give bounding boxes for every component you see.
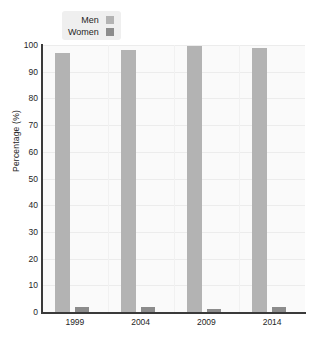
y-axis-tick-labels: 0102030405060708090100 [16, 45, 38, 312]
bar-men-2014 [252, 48, 267, 312]
bar-men-2004 [121, 50, 136, 312]
x-axis-tick-labels: 1999200420092014 [42, 317, 305, 333]
legend-label: Women [68, 27, 99, 37]
y-axis-tick-label: 80 [16, 93, 38, 103]
plot-area [42, 45, 305, 312]
y-axis-line [41, 44, 43, 313]
legend-item-women: Women [68, 26, 114, 37]
bar-group [187, 45, 240, 312]
vertical-gridline [108, 45, 109, 312]
x-axis-line [41, 312, 306, 314]
x-axis-tick-label: 2004 [111, 317, 171, 327]
y-axis-tick-label: 60 [16, 147, 38, 157]
vertical-gridline [239, 45, 240, 312]
bar-men-1999 [55, 53, 70, 312]
y-axis-tick-label: 70 [16, 120, 38, 130]
y-axis-tick-label: 100 [16, 40, 38, 50]
x-axis-tick-label: 2014 [242, 317, 302, 327]
bar-chart-figure: Percentage (%) 0102030405060708090100 19… [0, 0, 313, 344]
bar-men-2009 [187, 46, 202, 312]
bar-group [121, 45, 174, 312]
bar-group [55, 45, 108, 312]
x-axis-tick-label: 2009 [176, 317, 236, 327]
chart-legend: MenWomen [62, 11, 121, 40]
y-axis-tick-label: 30 [16, 227, 38, 237]
bar-group [252, 45, 305, 312]
y-axis-tick-label: 20 [16, 254, 38, 264]
y-axis-tick-label: 90 [16, 67, 38, 77]
legend-label: Men [81, 15, 99, 25]
y-axis-tick-label: 50 [16, 174, 38, 184]
legend-item-men: Men [68, 14, 114, 25]
legend-swatch-icon [106, 28, 114, 36]
y-axis-tick-label: 40 [16, 200, 38, 210]
x-axis-tick-label: 1999 [45, 317, 105, 327]
legend-swatch-icon [106, 16, 114, 24]
y-axis-tick-label: 0 [16, 307, 38, 317]
y-axis-tick-label: 10 [16, 280, 38, 290]
vertical-gridline [174, 45, 175, 312]
